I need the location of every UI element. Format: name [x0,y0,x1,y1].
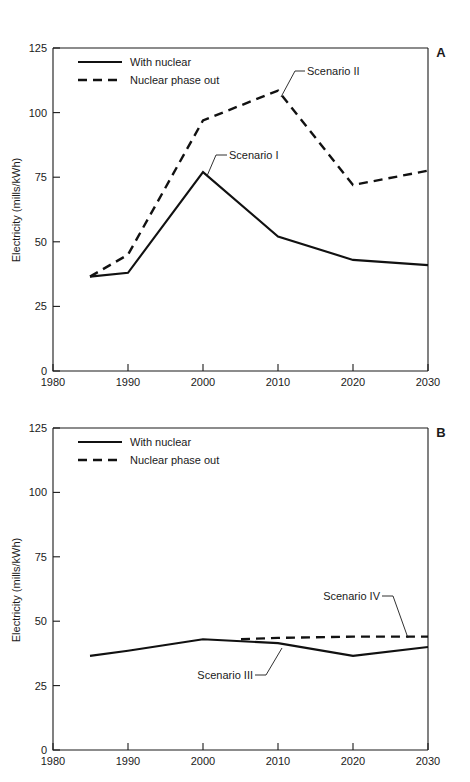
chart-panel-b: 0 25 50 75 100 125 1980 1990 2000 [0,390,470,782]
legend-a: With nuclear Nuclear phase out [78,56,219,86]
annotation-label-scenario-1: Scenario I [229,149,279,161]
panel-a-y-tick-labels: 0 25 50 75 100 125 [29,42,47,377]
x-tick-label-1980-a: 1980 [41,376,65,388]
y-tick-label-100-a: 100 [29,107,47,119]
x-tick-label-2000-a: 2000 [191,376,215,388]
axis-lines-b [53,428,428,750]
y-tick-label-75-a: 75 [35,171,47,183]
x-tick-label-2010-b: 2010 [266,755,290,767]
legend-label-nuclear-phase-out-b: Nuclear phase out [130,454,219,466]
panel-b-axes [53,428,428,750]
panel-letter-a: A [436,45,446,60]
x-tick-label-2020-a: 2020 [341,376,365,388]
y-tick-label-75-b: 75 [35,551,47,563]
x-tick-label-2010-a: 2010 [266,376,290,388]
x-tick-label-2020-b: 2020 [341,755,365,767]
annotation-scenario-3: Scenario III [197,648,282,681]
panel-b-x-ticks [53,743,428,750]
panel-a-axes [53,48,428,371]
annotation-leader-scenario-3 [255,648,282,675]
x-tick-label-2030-b: 2030 [416,755,440,767]
y-tick-label-25-b: 25 [35,680,47,692]
annotation-label-scenario-3: Scenario III [197,669,253,681]
panel-a-x-ticks [53,364,428,371]
y-tick-label-50-b: 50 [35,615,47,627]
panel-b-y-tick-labels: 0 25 50 75 100 125 [29,422,47,756]
panel-a-svg: 0 25 50 75 100 125 1980 1990 2000 [0,0,470,392]
chart-panel-a: 0 25 50 75 100 125 1980 1990 2000 [0,0,470,392]
annotation-label-scenario-4: Scenario IV [323,590,381,602]
y-tick-label-125-b: 125 [29,422,47,434]
legend-label-with-nuclear-a: With nuclear [130,56,191,68]
y-tick-label-125-a: 125 [29,42,47,54]
panel-b-svg: 0 25 50 75 100 125 1980 1990 2000 [0,390,470,782]
series-nuclear-phase-out-a [90,91,428,277]
x-tick-label-1990-b: 1990 [116,755,140,767]
annotation-scenario-1: Scenario I [207,149,279,176]
y-axis-title-b: Electricity (mills/kWh) [10,538,22,643]
series-nuclear-phase-out-b [241,637,428,640]
panel-b-y-ticks [53,428,60,750]
annotation-scenario-4: Scenario IV [323,590,408,638]
annotation-leader-scenario-4 [382,596,408,638]
annotation-leader-scenario-2 [281,71,305,97]
annotation-label-scenario-2: Scenario II [307,65,360,77]
x-tick-label-2000-b: 2000 [191,755,215,767]
annotation-scenario-2: Scenario II [281,65,360,97]
legend-b: With nuclear Nuclear phase out [78,436,219,466]
series-with-nuclear-b [90,639,428,656]
legend-label-with-nuclear-b: With nuclear [130,436,191,448]
panel-a-y-ticks [53,48,60,371]
y-axis-title-a: Electricity (mills/kWh) [10,158,22,263]
y-tick-label-50-a: 50 [35,236,47,248]
series-with-nuclear-a [90,172,428,277]
legend-label-nuclear-phase-out-a: Nuclear phase out [130,74,219,86]
panel-a-x-tick-labels: 1980 1990 2000 2010 2020 2030 [41,376,440,388]
panel-b-x-tick-labels: 1980 1990 2000 2010 2020 2030 [41,755,440,767]
y-tick-label-25-a: 25 [35,300,47,312]
annotation-leader-scenario-1 [207,155,227,176]
x-tick-label-1990-a: 1990 [116,376,140,388]
panel-letter-b: B [436,425,445,440]
x-tick-label-2030-a: 2030 [416,376,440,388]
y-tick-label-100-b: 100 [29,486,47,498]
axis-lines-a [53,48,428,371]
figure-container: 0 25 50 75 100 125 1980 1990 2000 [0,0,470,782]
x-tick-label-1980-b: 1980 [41,755,65,767]
